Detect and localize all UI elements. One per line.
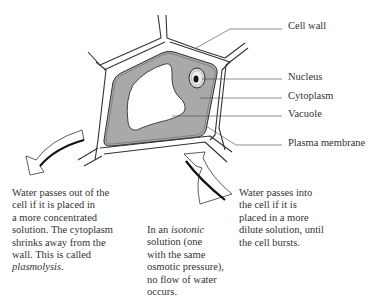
text-prefix: In an xyxy=(147,224,171,235)
caption-line: placed in a more xyxy=(239,212,379,224)
caption-line: the cell bursts. xyxy=(239,237,379,249)
caption-line: cell if it is placed in xyxy=(12,199,142,211)
caption-line: no flow of water xyxy=(147,274,242,286)
term-plasmolysis: plasmolysis xyxy=(12,261,61,272)
label-cell-wall: Cell wall xyxy=(288,20,326,32)
label-cytoplasm: Cytoplasm xyxy=(288,90,334,102)
caption-line: dilute solution, until xyxy=(239,224,379,236)
caption-line: shrinks away from the xyxy=(12,237,142,249)
caption-line: solution (one xyxy=(147,236,242,248)
punctuation: . xyxy=(61,261,64,272)
caption-line: osmotic pressure), xyxy=(147,261,242,273)
water-out-arrow xyxy=(26,130,84,175)
caption-line: plasmolysis. xyxy=(12,261,142,273)
caption-line: with the same xyxy=(147,249,242,261)
term-isotonic: isotonic xyxy=(171,224,204,235)
caption-line: wall. This is called xyxy=(12,249,142,261)
label-plasma-membrane: Plasma membrane xyxy=(288,137,365,149)
caption-line: occurs. xyxy=(147,286,242,298)
caption-line: Water passes into xyxy=(239,187,379,199)
caption-water-out: Water passes out of the cell if it is pl… xyxy=(12,187,142,274)
caption-isotonic: In an isotonic solution (one with the sa… xyxy=(147,224,242,298)
caption-line: a more concentrated xyxy=(12,212,142,224)
caption-line: solution. The cytoplasm xyxy=(12,224,142,236)
nucleus xyxy=(189,68,205,88)
caption-line: In an isotonic xyxy=(147,224,242,236)
caption-line: Water passes out of the xyxy=(12,187,142,199)
caption-water-in: Water passes into the cell if it is plac… xyxy=(239,187,379,249)
label-vacuole: Vacuole xyxy=(288,108,322,120)
label-nucleus: Nucleus xyxy=(288,71,322,83)
caption-line: the cell if it is xyxy=(239,199,379,211)
